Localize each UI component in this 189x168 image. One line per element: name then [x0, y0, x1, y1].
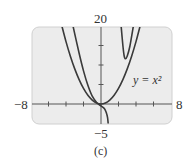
figure-caption: (c) [94, 145, 107, 157]
y-min-label: −5 [94, 127, 108, 140]
curve-annotation: y = x² [133, 74, 161, 86]
x-max-label: 8 [176, 98, 183, 111]
y-max-label: 20 [94, 12, 107, 25]
x-min-label: −8 [14, 98, 28, 111]
